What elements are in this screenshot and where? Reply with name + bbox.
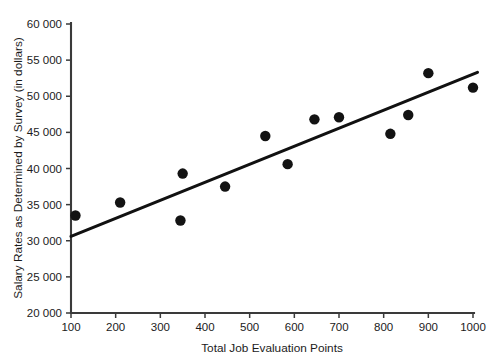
data-point (260, 131, 270, 141)
data-point (115, 197, 125, 207)
data-point (309, 114, 319, 124)
y-axis-title: Salary Rates as Determined by Survey (in… (11, 37, 25, 299)
data-point (468, 82, 478, 92)
data-point (385, 129, 395, 139)
x-tick-label: 800 (374, 321, 393, 333)
y-tick-label: 35 000 (27, 199, 62, 211)
y-tick-label: 40 000 (27, 163, 62, 175)
x-tick-label: 900 (419, 321, 438, 333)
data-point (175, 215, 185, 225)
y-axis-tick-labels: 20 00025 00030 00035 00040 00045 00050 0… (27, 18, 62, 319)
x-tick-label: 600 (285, 321, 304, 333)
x-axis-title: Total Job Evaluation Points (201, 341, 343, 355)
x-tick-label: 200 (106, 321, 125, 333)
scatter-plot: 20 00025 00030 00035 00040 00045 00050 0… (0, 0, 501, 364)
data-point (423, 68, 433, 78)
y-tick-label: 45 000 (27, 126, 62, 138)
data-point (282, 159, 292, 169)
x-tick-label: 1000 (460, 321, 486, 333)
y-tick-label: 55 000 (27, 54, 62, 66)
x-tick-label: 500 (240, 321, 259, 333)
x-tick-label: 400 (195, 321, 214, 333)
y-tick-label: 50 000 (27, 90, 62, 102)
chart-page: 20 00025 00030 00035 00040 00045 00050 0… (0, 0, 501, 364)
data-point (177, 168, 187, 178)
y-tick-label: 60 000 (27, 18, 62, 30)
y-tick-label: 20 000 (27, 307, 62, 319)
data-point (220, 181, 230, 191)
x-tick-label: 300 (151, 321, 170, 333)
data-point (70, 210, 80, 220)
plot-background (0, 0, 501, 364)
x-tick-label: 700 (329, 321, 348, 333)
y-tick-label: 30 000 (27, 235, 62, 247)
y-tick-label: 25 000 (27, 271, 62, 283)
data-point (403, 110, 413, 120)
data-point (334, 112, 344, 122)
x-tick-label: 100 (61, 321, 80, 333)
